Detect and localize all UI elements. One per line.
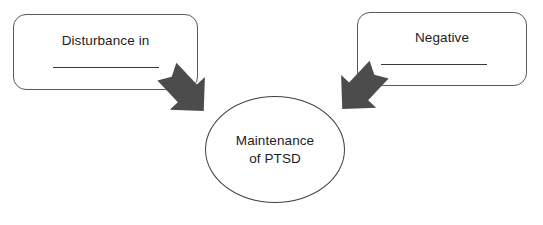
blank-underline-left [53,67,159,68]
center-node-label-line-2: of PTSD [236,150,314,168]
node-box-negative-label: Negative [358,30,526,46]
center-node-label-line-1: Maintenance [236,133,314,148]
center-node-label: Maintenance of PTSD [236,132,314,168]
arrow-right-to-center-icon [326,60,394,120]
node-box-disturbance-label: Disturbance in [14,33,197,49]
diagram-canvas: Disturbance in Negative Maintenance of P… [0,0,543,225]
blank-underline-right [381,64,487,65]
center-node-maintenance-of-ptsd[interactable]: Maintenance of PTSD [205,96,345,203]
arrow-left-to-center-icon [152,62,220,122]
